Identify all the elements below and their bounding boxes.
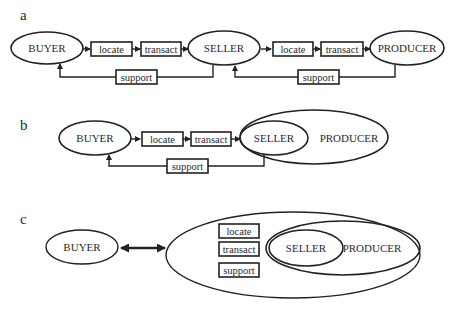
support-label: support — [223, 265, 255, 276]
transact-label: transact — [326, 44, 359, 55]
support-step: support — [116, 70, 157, 84]
transact-step-2: transact — [321, 42, 363, 56]
panel-label-c: c — [20, 211, 27, 227]
producer-node: PRODUCER — [370, 31, 444, 65]
support-step-2: support — [298, 70, 339, 84]
locate-step: locate — [142, 132, 183, 146]
seller-node: SELLER — [240, 121, 308, 155]
seller-label: SELLER — [204, 42, 245, 54]
panel-label-a: a — [20, 7, 27, 23]
buyer-node: BUYER — [59, 121, 131, 155]
transact-label: transact — [223, 244, 256, 255]
producer-label: PRODUCER — [378, 42, 437, 54]
buyer-label: BUYER — [28, 42, 66, 54]
value-chain-diagram: a BUYER locate transact SELLER support — [0, 0, 451, 311]
support-step: support — [219, 263, 259, 277]
transact-label: transact — [145, 44, 178, 55]
seller-label: SELLER — [254, 132, 295, 144]
producer-label: PRODUCER — [343, 242, 402, 254]
support-label: support — [172, 161, 204, 172]
buyer-label: BUYER — [63, 241, 101, 253]
transact-step: transact — [191, 132, 231, 146]
transact-step: transact — [141, 42, 181, 56]
buyer-label: BUYER — [76, 132, 114, 144]
buyer-node: BUYER — [46, 230, 118, 264]
seller-label: SELLER — [286, 242, 327, 254]
panel-a: a BUYER locate transact SELLER support — [11, 7, 444, 84]
locate-step: locate — [219, 224, 259, 238]
seller-node: SELLER — [188, 31, 260, 65]
support-step: support — [167, 159, 208, 173]
locate-label: locate — [226, 226, 251, 237]
seller-node: SELLER — [269, 230, 343, 266]
panel-c: c BUYER locate transact support PRODUCER… — [20, 211, 420, 298]
locate-step-2: locate — [273, 42, 313, 56]
support-label: support — [121, 72, 153, 83]
support-label: support — [303, 72, 335, 83]
locate-label: locate — [280, 44, 305, 55]
panel-label-b: b — [20, 117, 28, 133]
locate-label: locate — [150, 134, 175, 145]
buyer-node: BUYER — [11, 32, 83, 64]
locate-label: locate — [99, 44, 124, 55]
locate-step: locate — [91, 42, 132, 56]
transact-step: transact — [219, 242, 259, 256]
producer-label: PRODUCER — [320, 132, 379, 144]
panel-b: b BUYER locate transact PRODUCER SELLER … — [20, 110, 388, 173]
transact-label: transact — [195, 134, 228, 145]
